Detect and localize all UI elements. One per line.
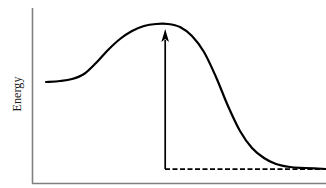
energy-diagram-canvas — [0, 0, 326, 188]
energy-diagram-figure: Energy — [0, 0, 326, 188]
energy-profile-curve — [46, 24, 326, 169]
